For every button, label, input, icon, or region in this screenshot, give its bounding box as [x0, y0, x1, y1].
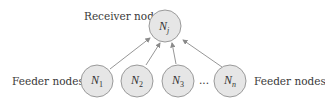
edge-n2-to-nj [146, 43, 160, 65]
edge-n1-to-nj [110, 38, 150, 69]
feeder-node-2: N2 [121, 65, 153, 97]
feeder-nodes-label-left: Feeder nodes [12, 75, 84, 87]
feeder-node-n: Nn [214, 65, 246, 97]
feeder-node-1: N1 [81, 65, 113, 97]
network-diagram: Receiver node Nj Feeder nodes N1 N2 N3 .… [0, 0, 325, 104]
receiver-node-label: Receiver node [84, 10, 160, 22]
edge-n3-to-nj [172, 43, 176, 64]
feeder-node-3: N3 [162, 65, 194, 97]
edge-nn-to-nj [183, 40, 222, 67]
receiver-node: Nj [149, 10, 181, 42]
feeder-nodes-label-right: Feeder nodes [254, 75, 325, 87]
ellipsis: ... [199, 74, 209, 86]
